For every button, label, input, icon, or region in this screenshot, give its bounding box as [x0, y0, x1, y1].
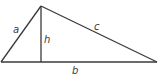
triangle-diagram: a h c b — [0, 0, 161, 76]
side-a-edge — [1, 6, 41, 62]
height-label: h — [44, 34, 50, 45]
side-a-label: a — [13, 24, 19, 35]
side-c-label: c — [94, 21, 100, 32]
side-c-edge — [41, 6, 157, 62]
side-b-label: b — [72, 65, 78, 76]
